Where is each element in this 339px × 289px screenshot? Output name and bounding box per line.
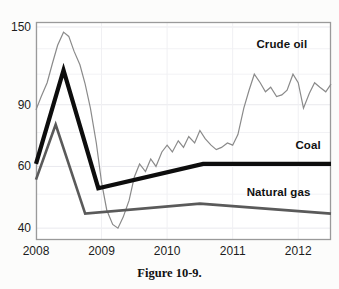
figure-root: Figure 10-9. 150906040200820092010201120… xyxy=(0,0,339,289)
x-axis-tick-label: 2009 xyxy=(82,244,122,258)
series-label-natural-gas: Natural gas xyxy=(247,186,311,198)
y-axis-tick-label: 150 xyxy=(11,20,31,34)
y-axis-tick-label: 40 xyxy=(18,221,31,235)
y-axis-tick-label: 60 xyxy=(18,159,31,173)
x-axis-tick-label: 2008 xyxy=(16,244,56,258)
x-axis-tick-label: 2011 xyxy=(213,244,253,258)
figure-caption: Figure 10-9. xyxy=(0,266,339,281)
x-axis-tick-label: 2010 xyxy=(147,244,187,258)
series-label-coal: Coal xyxy=(295,139,320,151)
x-axis-tick-label: 2012 xyxy=(278,244,318,258)
y-axis-tick-label: 90 xyxy=(18,98,31,112)
series-label-crude-oil: Crude oil xyxy=(256,38,307,50)
